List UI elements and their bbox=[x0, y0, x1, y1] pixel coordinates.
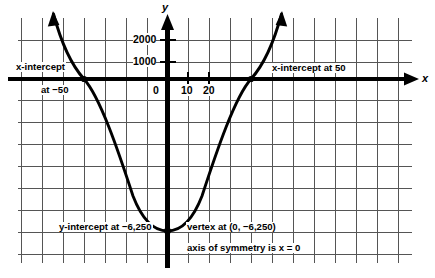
y-tick-label-1000: 1000 bbox=[133, 55, 156, 67]
annotation-axis-of-symmetry: axis of symmetry is x = 0 bbox=[186, 243, 301, 253]
x-tick-label-20: 20 bbox=[203, 84, 215, 96]
x-axis-label: x bbox=[422, 72, 428, 84]
y-axis-label: y bbox=[162, 1, 168, 13]
annotation-x-intercept-right: x-intercept at 50 bbox=[271, 63, 347, 73]
annotation-y-intercept: y-intercept at −6,250 bbox=[58, 222, 153, 232]
annotation-vertex: vertex at (0, −6,250) bbox=[186, 222, 277, 232]
x-tick-label-10: 10 bbox=[181, 84, 193, 96]
x-tick-label-0: 0 bbox=[153, 84, 159, 96]
graph-figure: 2000 1000 0 10 20 y x x-intercept at −50… bbox=[0, 0, 435, 278]
y-tick-label-2000: 2000 bbox=[133, 33, 156, 45]
graph-canvas bbox=[0, 0, 435, 278]
annotation-x-intercept-left-line1: x-intercept bbox=[15, 62, 66, 72]
annotation-x-intercept-left-line2: at −50 bbox=[40, 85, 69, 95]
